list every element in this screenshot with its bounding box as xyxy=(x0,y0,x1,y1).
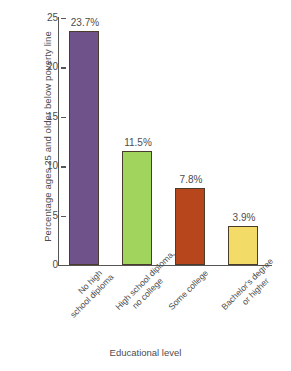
y-tick-label: 5 xyxy=(52,209,58,222)
y-tick-label: 15 xyxy=(47,110,58,123)
x-category-label-line: Some college xyxy=(166,268,210,312)
x-category-label: High school diploma,no college xyxy=(113,268,165,320)
bar[interactable] xyxy=(175,188,205,265)
y-tick: 10 xyxy=(0,166,66,167)
y-tick-label: 0 xyxy=(52,258,58,271)
y-tick: 5 xyxy=(0,216,66,217)
bars-layer: 23.7%11.5%7.8%3.9% xyxy=(59,18,272,265)
y-tick: 20 xyxy=(0,67,66,68)
y-tick-label: 10 xyxy=(47,159,58,172)
y-tick-label: 25 xyxy=(47,11,58,24)
bar-value-label: 7.8% xyxy=(165,174,217,185)
bar-value-label: 3.9% xyxy=(218,212,270,223)
y-tick: 25 xyxy=(0,18,66,19)
x-category-label: Some college xyxy=(166,268,210,312)
bar[interactable] xyxy=(69,31,99,265)
bar-value-label: 23.7% xyxy=(59,17,111,28)
bar-slot: 23.7% xyxy=(59,18,111,265)
bar-slot: 3.9% xyxy=(218,18,270,265)
bar-chart: Percentage ages 25 and older below pover… xyxy=(0,0,291,371)
bar-value-label: 11.5% xyxy=(112,137,164,148)
bar[interactable] xyxy=(122,151,152,265)
y-axis-title: Percentage ages 25 and older below pover… xyxy=(42,12,53,262)
y-tick-label: 20 xyxy=(47,60,58,73)
x-category-label: Bachelor's degreeor higher xyxy=(219,268,271,320)
y-tick: 15 xyxy=(0,117,66,118)
bar-slot: 7.8% xyxy=(165,18,217,265)
y-tick-mark xyxy=(61,265,66,266)
bar[interactable] xyxy=(228,226,258,265)
x-axis-title: Educational level xyxy=(0,347,291,358)
x-category-label: No highschool diploma xyxy=(60,268,112,320)
y-tick: 0 xyxy=(0,265,66,266)
x-axis-category-labels: No highschool diplomaHigh school diploma… xyxy=(59,268,272,346)
bar-slot: 11.5% xyxy=(112,18,164,265)
